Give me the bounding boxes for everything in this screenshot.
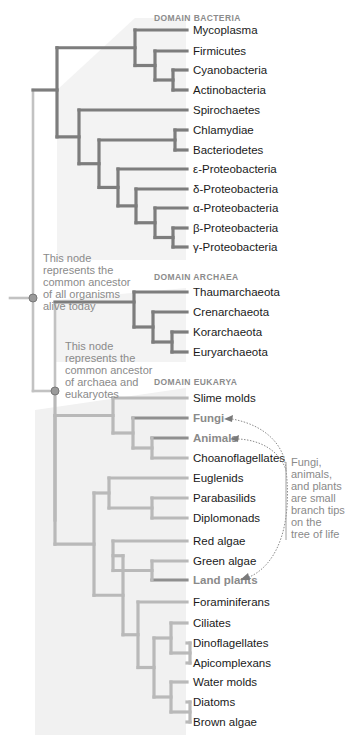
leaf-label: Spirochaetes (193, 104, 260, 116)
domain-eukarya-label: DOMAIN EUKARYA (154, 377, 237, 387)
root-node-icon (29, 294, 37, 302)
leaf-label: Foraminiferans (193, 596, 270, 608)
leaf-label: Euryarchaeota (193, 346, 268, 358)
leaf-label: Korarchaeota (193, 326, 263, 338)
leaf-label: Choanoflagellates (193, 452, 285, 464)
leaf-label: α-Proteobacteria (193, 202, 279, 214)
leaf-label: δ-Proteobacteria (193, 183, 279, 195)
leaf-label: Green algae (193, 555, 256, 567)
leaf-label: Diplomonads (193, 512, 260, 524)
leaf-label: Diatoms (193, 696, 235, 708)
domain-bacteria-label: DOMAIN BACTERIA (154, 13, 241, 23)
leaf-label: Water molds (193, 676, 257, 688)
tree-of-life-diagram: DOMAIN BACTERIA DOMAIN ARCHAEA DOMAIN EU… (0, 0, 354, 742)
leaf-label: Dinoflagellates (193, 637, 269, 649)
leaf-label: Brown algae (193, 716, 257, 728)
leaf-label: Slime molds (193, 392, 256, 404)
leaf-label: Fungi (193, 412, 224, 424)
leaf-label: Chlamydiae (193, 124, 254, 136)
leaf-label: Apicomplexans (193, 657, 271, 669)
leaf-label: Firmicutes (193, 45, 246, 57)
leaf-label: Red algae (193, 535, 245, 547)
leaf-label: Mycoplasma (193, 24, 258, 36)
leaf-label: Animals (193, 432, 238, 444)
archaea-eukarya-node-icon (51, 387, 59, 395)
leaf-label: Ciliates (193, 617, 231, 629)
leaf-label: Euglenids (193, 472, 244, 484)
leaf-label: Thaumarchaeota (193, 286, 281, 298)
callout-note: Fungi, animals, and plants are small bra… (291, 456, 348, 540)
leaf-label: Cyanobacteria (193, 64, 268, 76)
leaf-label: Crenarchaeota (193, 306, 270, 318)
leaf-label: β-Proteobacteria (193, 222, 279, 234)
leaf-label: Actinobacteria (193, 84, 266, 96)
leaf-label: Parabasilids (193, 492, 256, 504)
leaf-label: γ-Proteobacteria (193, 241, 278, 253)
leaf-label: Bacteriodetes (193, 144, 264, 156)
leaf-label: ε-Proteobacteria (193, 163, 277, 175)
domain-archaea-label: DOMAIN ARCHAEA (154, 272, 239, 282)
